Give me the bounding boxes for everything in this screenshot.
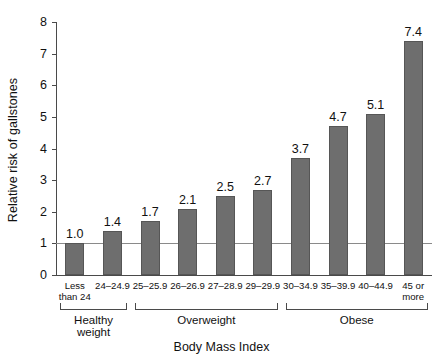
bar xyxy=(103,231,122,275)
bar-value-label: 1.4 xyxy=(92,216,132,229)
y-tick-label: 8 xyxy=(25,16,47,29)
bar xyxy=(291,158,310,275)
y-tick-label: 7 xyxy=(25,48,47,61)
group-bracket xyxy=(286,303,428,310)
y-tick-label: 3 xyxy=(25,174,47,187)
group-bracket xyxy=(60,303,127,310)
y-tick-mark: 2 xyxy=(52,212,56,213)
bar-value-label: 2.7 xyxy=(243,175,283,188)
y-tick-mark: 3 xyxy=(52,180,56,181)
y-tick-mark: 0 xyxy=(52,275,56,276)
y-tick-label: 5 xyxy=(25,111,47,124)
group-bracket xyxy=(135,303,277,310)
y-tick-mark: 8 xyxy=(52,22,56,23)
y-tick-mark: 6 xyxy=(52,85,56,86)
bar xyxy=(178,209,197,275)
bar-value-label: 3.7 xyxy=(280,143,320,156)
bar-value-label: 4.7 xyxy=(318,111,358,124)
bar xyxy=(366,114,385,275)
y-tick-mark: 7 xyxy=(52,54,56,55)
bar-value-label: 5.1 xyxy=(356,99,396,112)
y-tick-mark: 5 xyxy=(52,117,56,118)
plot-area: 012345678 1.01.41.72.12.52.73.74.75.17.4 xyxy=(56,22,432,275)
y-tick-label: 4 xyxy=(25,143,47,156)
bar-value-label: 1.0 xyxy=(55,228,95,241)
y-tick-label: 2 xyxy=(25,206,47,219)
bar-value-label: 2.5 xyxy=(205,181,245,194)
bar-chart: Relative risk of gallstones 012345678 1.… xyxy=(0,0,443,360)
bar xyxy=(329,126,348,275)
y-axis-title: Relative risk of gallstones xyxy=(6,10,24,290)
x-tick-label: 45 ormore xyxy=(387,280,439,302)
bar-value-label: 7.4 xyxy=(393,26,433,39)
group-label: Obese xyxy=(286,315,428,327)
y-tick-label: 0 xyxy=(25,269,47,282)
bar xyxy=(404,41,423,275)
y-tick-label: 1 xyxy=(25,237,47,250)
bar xyxy=(65,243,84,275)
group-label: Overweight xyxy=(135,315,277,327)
y-tick-mark: 4 xyxy=(52,149,56,150)
x-tick-label-line: 45 or xyxy=(387,280,439,291)
bar xyxy=(216,196,235,275)
bar-value-label: 1.7 xyxy=(130,206,170,219)
bar-value-label: 2.1 xyxy=(168,194,208,207)
x-axis-line xyxy=(56,275,432,276)
bar xyxy=(141,221,160,275)
x-tick-label-line: than 24 xyxy=(49,291,101,302)
y-tick-label: 6 xyxy=(25,79,47,92)
bar xyxy=(253,190,272,275)
x-axis-title: Body Mass Index xyxy=(0,340,443,354)
group-label: Healthy weight xyxy=(60,315,127,338)
x-tick-label-line: more xyxy=(387,291,439,302)
